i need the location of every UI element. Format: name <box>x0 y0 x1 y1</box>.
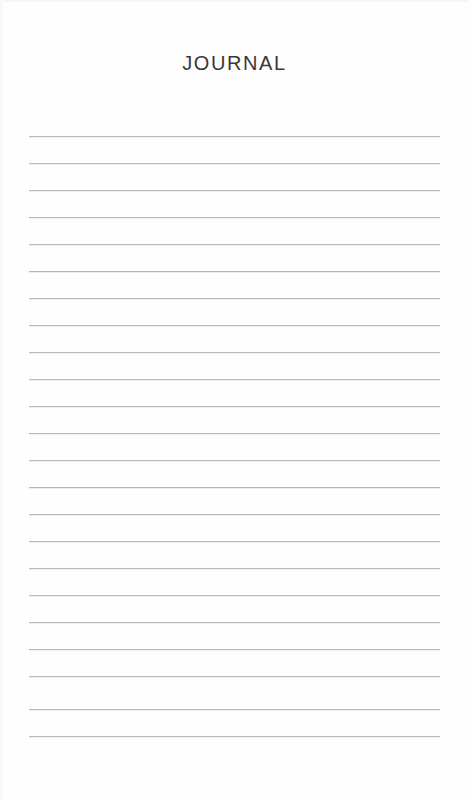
rule-line <box>29 568 440 569</box>
rule-line <box>29 676 440 677</box>
rule-line <box>29 163 440 164</box>
rule-line <box>29 595 440 596</box>
journal-page: JOURNAL <box>0 0 469 799</box>
rule-line <box>29 433 440 434</box>
rule-line <box>29 709 440 710</box>
rule-line <box>29 541 440 542</box>
rule-line <box>29 460 440 461</box>
rule-line <box>29 487 440 488</box>
rule-line <box>29 136 440 137</box>
rule-line <box>29 298 440 299</box>
rule-line <box>29 352 440 353</box>
rule-line <box>29 325 440 326</box>
rule-line <box>29 271 440 272</box>
rule-line <box>29 217 440 218</box>
rule-line <box>29 622 440 623</box>
rule-line <box>29 406 440 407</box>
rule-line <box>29 379 440 380</box>
ruled-lines-area <box>0 0 469 799</box>
rule-line <box>29 244 440 245</box>
rule-line <box>29 736 440 737</box>
rule-line <box>29 190 440 191</box>
rule-line <box>29 649 440 650</box>
rule-line <box>29 514 440 515</box>
